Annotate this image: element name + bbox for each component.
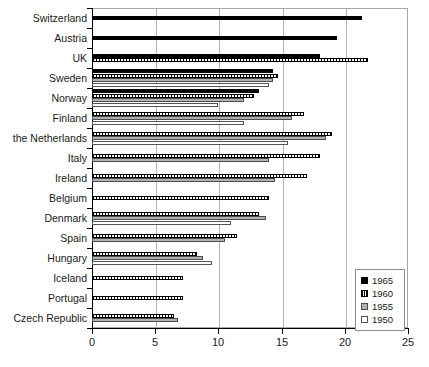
category-label-belgium: Belgium bbox=[49, 192, 92, 204]
legend-swatch-1960 bbox=[361, 290, 368, 297]
bar-norway-1950 bbox=[92, 103, 218, 107]
x-tick-label-0: 0 bbox=[89, 336, 95, 348]
category-label-switzerland: Switzerland bbox=[33, 12, 92, 24]
category-label-sweden: Sweden bbox=[49, 72, 92, 84]
y-tick bbox=[87, 208, 92, 209]
x-tick-15 bbox=[282, 329, 283, 334]
legend-label-1955: 1955 bbox=[372, 302, 393, 312]
legend-label-1950: 1950 bbox=[372, 315, 393, 325]
legend-swatch-1955 bbox=[361, 303, 368, 310]
bar-sweden-1955 bbox=[92, 78, 273, 82]
bar-ireland-1960 bbox=[92, 174, 307, 178]
bar-belgium-1960 bbox=[92, 196, 269, 200]
bar-norway-1960 bbox=[92, 94, 254, 98]
legend-label-1960: 1960 bbox=[372, 289, 393, 299]
y-tick bbox=[87, 268, 92, 269]
category-label-uk: UK bbox=[72, 52, 92, 64]
y-tick bbox=[87, 228, 92, 229]
y-tick bbox=[87, 8, 92, 9]
x-tick-label-10: 10 bbox=[212, 336, 224, 348]
x-tick-20 bbox=[345, 329, 346, 334]
bar-finland-1960 bbox=[92, 112, 304, 116]
bar-switzerland-1965 bbox=[92, 16, 362, 20]
bar-spain-1955 bbox=[92, 238, 225, 242]
bar-czech-republic-1955 bbox=[92, 318, 178, 322]
category-label-hungary: Hungary bbox=[47, 252, 92, 264]
gridline-20 bbox=[346, 9, 347, 327]
x-tick-0 bbox=[92, 329, 93, 334]
y-tick bbox=[87, 168, 92, 169]
bar-denmark-1960 bbox=[92, 212, 259, 216]
y-tick bbox=[87, 248, 92, 249]
legend: 1965196019551950 bbox=[355, 269, 405, 331]
bar-denmark-1955 bbox=[92, 216, 266, 220]
category-label-the-netherlands: the Netherlands bbox=[13, 132, 92, 144]
category-label-czech-republic: Czech Republic bbox=[13, 312, 92, 324]
category-label-denmark: Denmark bbox=[44, 212, 92, 224]
y-tick bbox=[87, 148, 92, 149]
bar-uk-1965 bbox=[92, 54, 320, 58]
legend-swatch-1965 bbox=[361, 277, 368, 284]
bar-uk-1960 bbox=[92, 58, 368, 62]
y-tick bbox=[87, 48, 92, 49]
bar-sweden-1950 bbox=[92, 83, 269, 87]
bar-the-netherlands-1960 bbox=[92, 132, 332, 136]
bar-spain-1960 bbox=[92, 234, 237, 238]
bar-hungary-1955 bbox=[92, 256, 203, 260]
x-tick-10 bbox=[218, 329, 219, 334]
x-tick-25 bbox=[408, 329, 409, 334]
category-label-ireland: Ireland bbox=[55, 172, 92, 184]
y-tick bbox=[87, 108, 92, 109]
legend-row-1955: 1955 bbox=[361, 300, 399, 313]
legend-row-1960: 1960 bbox=[361, 287, 399, 300]
bar-sweden-1965 bbox=[92, 69, 273, 73]
y-tick bbox=[87, 288, 92, 289]
legend-row-1950: 1950 bbox=[361, 313, 399, 326]
x-tick-label-25: 25 bbox=[402, 336, 414, 348]
y-tick bbox=[87, 68, 92, 69]
category-label-iceland: Iceland bbox=[53, 272, 92, 284]
bar-chart: SwitzerlandAustriaUKSwedenNorwayFinlandt… bbox=[0, 0, 429, 367]
bar-sweden-1960 bbox=[92, 74, 278, 78]
category-label-portugal: Portugal bbox=[48, 292, 92, 304]
x-tick-label-5: 5 bbox=[152, 336, 158, 348]
y-tick bbox=[87, 188, 92, 189]
bar-portugal-1960 bbox=[92, 296, 183, 300]
bar-hungary-1960 bbox=[92, 252, 197, 256]
y-tick bbox=[87, 88, 92, 89]
legend-swatch-1950 bbox=[361, 316, 368, 323]
category-label-finland: Finland bbox=[53, 112, 92, 124]
category-label-norway: Norway bbox=[51, 92, 92, 104]
bar-finland-1950 bbox=[92, 121, 244, 125]
bar-norway-1965 bbox=[92, 89, 259, 93]
y-tick bbox=[87, 28, 92, 29]
bar-finland-1955 bbox=[92, 116, 292, 120]
x-tick-5 bbox=[155, 329, 156, 334]
y-tick bbox=[87, 128, 92, 129]
bar-hungary-1950 bbox=[92, 261, 212, 265]
category-label-spain: Spain bbox=[60, 232, 92, 244]
category-label-italy: Italy bbox=[68, 152, 92, 164]
bar-denmark-1950 bbox=[92, 221, 231, 225]
bar-austria-1965 bbox=[92, 36, 337, 40]
bar-the-netherlands-1950 bbox=[92, 141, 288, 145]
bar-italy-1955 bbox=[92, 158, 269, 162]
legend-label-1965: 1965 bbox=[372, 276, 393, 286]
category-label-austria: Austria bbox=[54, 32, 92, 44]
legend-row-1965: 1965 bbox=[361, 274, 399, 287]
bar-italy-1960 bbox=[92, 154, 320, 158]
x-tick-label-15: 15 bbox=[276, 336, 288, 348]
bar-norway-1955 bbox=[92, 98, 244, 102]
x-tick-label-20: 20 bbox=[339, 336, 351, 348]
bar-iceland-1960 bbox=[92, 276, 183, 280]
bar-ireland-1955 bbox=[92, 178, 275, 182]
bar-czech-republic-1960 bbox=[92, 314, 174, 318]
bar-the-netherlands-1955 bbox=[92, 136, 326, 140]
y-tick bbox=[87, 308, 92, 309]
